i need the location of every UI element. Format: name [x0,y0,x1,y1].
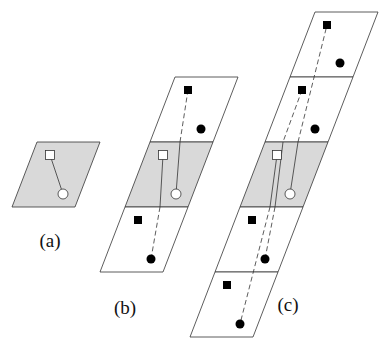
filled-circle-icon [261,255,270,264]
filled-square-icon [323,21,331,29]
open-square-icon [273,151,282,160]
filled-square-icon [184,86,192,94]
filled-square-icon [134,216,142,224]
panel-a-label: (a) [39,230,60,252]
filled-square-icon [248,216,256,224]
panel-a [12,142,100,207]
open-circle-icon [58,189,68,199]
filled-square-icon [298,86,306,94]
cell [265,77,353,142]
filled-circle-icon [197,125,206,134]
cell [150,77,238,142]
open-square-icon [159,151,168,160]
lattice-diagram: (a) (b) (c) [0,0,388,348]
cell [215,207,303,272]
filled-circle-icon [336,59,345,68]
filled-circle-icon [236,320,245,329]
open-circle-icon [171,189,181,199]
open-circle-icon [285,189,295,199]
shaded-cell [12,142,100,207]
panel-b-label: (b) [114,297,136,319]
filled-square-icon [223,281,231,289]
filled-circle-icon [311,125,320,134]
shaded-cell [240,142,328,207]
panel-b [100,77,238,272]
panel-c-label: (c) [277,294,298,316]
panel-c [190,12,378,337]
filled-circle-icon [147,255,156,264]
shaded-cell [125,142,213,207]
cell [190,272,278,337]
open-square-icon [46,151,55,160]
cell [290,12,378,77]
cell [100,207,188,272]
